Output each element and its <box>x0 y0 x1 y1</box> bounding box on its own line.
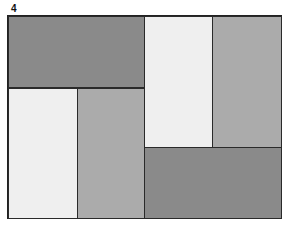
bottom-left-block <box>8 88 78 219</box>
bottom-middle-block <box>77 88 145 219</box>
figure-label: 4 <box>11 3 17 14</box>
top-left-block <box>8 16 145 88</box>
top-right-medium-block <box>212 16 282 148</box>
figure-frame <box>7 15 282 219</box>
bottom-right-block <box>144 147 282 219</box>
top-right-light-block <box>144 16 213 148</box>
